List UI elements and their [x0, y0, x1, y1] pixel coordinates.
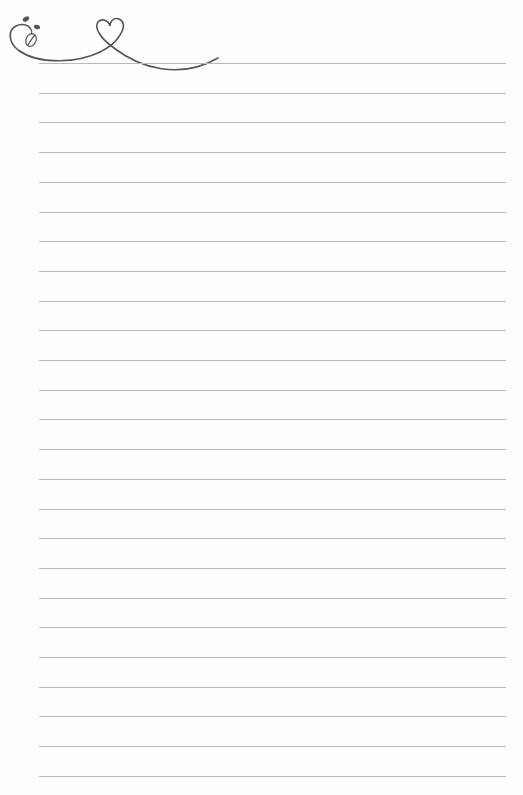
ruled-line: [39, 152, 506, 153]
ruled-line: [39, 627, 506, 628]
ruled-line: [39, 360, 506, 361]
ruled-line: [39, 63, 506, 64]
ruled-line: [39, 449, 506, 450]
ruled-line: [39, 538, 506, 539]
ruled-line: [39, 419, 506, 420]
lined-paper: · · ·: [0, 0, 523, 795]
ruled-line: [39, 93, 506, 94]
ruled-line: [39, 182, 506, 183]
ruled-line: [39, 687, 506, 688]
ruled-line: [39, 509, 506, 510]
ruled-line: [39, 122, 506, 123]
page-footer-mark: · · ·: [250, 786, 259, 792]
heart-vine-ornament-icon: [0, 0, 230, 90]
ruled-line: [39, 330, 506, 331]
ruled-line: [39, 241, 506, 242]
ruled-line: [39, 716, 506, 717]
ruled-line: [39, 776, 506, 777]
ruled-line: [39, 212, 506, 213]
ruled-line: [39, 479, 506, 480]
ruled-line: [39, 657, 506, 658]
ruled-line: [39, 598, 506, 599]
ruled-line: [39, 390, 506, 391]
ruled-line: [39, 746, 506, 747]
ruled-line: [39, 301, 506, 302]
ruled-line: [39, 271, 506, 272]
ruled-line: [39, 568, 506, 569]
